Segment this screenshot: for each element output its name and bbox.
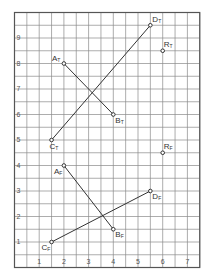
- x-tick-label: 3: [87, 258, 91, 265]
- coordinate-grid-diagram: [0, 0, 214, 278]
- y-tick-label: 5: [17, 136, 21, 143]
- point-label-R_T: RT: [164, 41, 173, 49]
- point-label-D_F: DF: [152, 193, 161, 201]
- x-tick-label: 6: [161, 258, 165, 265]
- y-tick-label: 2: [17, 213, 21, 220]
- y-tick-label: 1: [17, 238, 21, 245]
- y-tick-label: 7: [17, 85, 21, 92]
- x-tick-label: 7: [185, 258, 189, 265]
- x-tick-label: 5: [136, 258, 140, 265]
- x-tick-label: 4: [111, 258, 115, 265]
- y-tick-label: 9: [17, 34, 21, 41]
- point-label-B_T: BT: [115, 117, 123, 125]
- x-tick-label: 1: [37, 258, 41, 265]
- point-label-C_T: CT: [50, 143, 59, 151]
- point-R_T: [161, 49, 165, 53]
- y-tick-label: 8: [17, 60, 21, 67]
- point-label-A_F: AF: [54, 168, 62, 176]
- point-R_F: [161, 151, 165, 155]
- point-A_T: [62, 62, 66, 66]
- x-tick-label: 2: [62, 258, 66, 265]
- point-label-A_T: AT: [52, 55, 60, 63]
- point-label-R_F: RF: [164, 143, 173, 151]
- point-label-D_T: DT: [152, 16, 161, 24]
- y-tick-label: 6: [17, 111, 21, 118]
- y-tick-label: 4: [17, 162, 21, 169]
- point-label-B_F: BF: [115, 231, 123, 239]
- point-label-C_F: CF: [42, 244, 51, 252]
- y-tick-label: 3: [17, 187, 21, 194]
- point-A_F: [62, 164, 66, 168]
